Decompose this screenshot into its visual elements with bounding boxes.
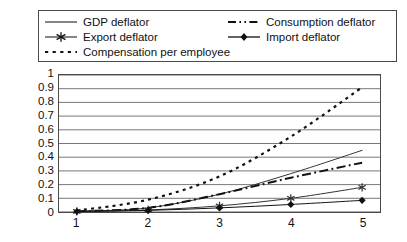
legend-item-compensation-per-employee: Compensation per employee	[44, 44, 230, 59]
legend-item-export-deflator: Export deflator	[44, 29, 158, 44]
y-axis-tick-labels: 00.10.20.30.40.50.60.70.80.91	[18, 74, 54, 213]
x-axis-tick-label: 1	[61, 216, 91, 230]
legend-label-gdp-deflator: GDP deflator	[83, 15, 149, 29]
legend-label-consumption-deflator: Consumption deflator	[266, 15, 375, 29]
legend-item-gdp-deflator: GDP deflator	[44, 14, 149, 29]
legend-label-compensation-per-employee: Compensation per employee	[83, 45, 230, 59]
plot-area	[58, 74, 381, 213]
y-axis-tick-label: 0.9	[20, 82, 54, 93]
x-axis-tick-label: 3	[205, 216, 235, 230]
y-axis-tick-label: 0.1	[20, 193, 54, 204]
legend-item-import-deflator: Import deflator	[227, 29, 340, 44]
legend-swatch-star-marker-line-icon	[44, 30, 78, 44]
legend-item-consumption-deflator: Consumption deflator	[227, 14, 375, 29]
legend-swatch-dash-dot-line-icon	[227, 15, 261, 29]
legend-swatch-solid-line-icon	[44, 15, 78, 29]
y-axis-tick-label: 0.6	[20, 124, 54, 135]
x-axis-tick-label: 4	[276, 216, 306, 230]
y-axis-tick-label: 0.3	[20, 165, 54, 176]
series-line	[77, 87, 362, 210]
legend-swatch-dotted-line-icon	[44, 45, 78, 59]
y-axis-tick-label: 1	[20, 68, 54, 79]
legend-label-import-deflator: Import deflator	[266, 30, 340, 44]
y-axis-tick-label: 0.7	[20, 110, 54, 121]
legend-swatch-diamond-marker-line-icon	[227, 30, 261, 44]
data-point-marker-diamond	[287, 201, 294, 208]
y-axis-tick-label: 0.8	[20, 96, 54, 107]
data-series-layer	[59, 75, 380, 212]
legend-label-export-deflator: Export deflator	[83, 30, 158, 44]
x-axis-tick-labels: 12345	[58, 216, 381, 234]
chart-legend: GDP deflator Export deflator	[38, 10, 397, 62]
data-point-marker-diamond	[359, 197, 366, 204]
chart-figure: GDP deflator Export deflator	[0, 0, 407, 242]
data-point-marker-diamond	[73, 208, 80, 215]
series-import-deflator	[73, 197, 365, 215]
y-axis-tick-label: 0.4	[20, 151, 54, 162]
series-compensation-per-employee	[77, 87, 362, 210]
y-axis-tick-label: 0.5	[20, 138, 54, 149]
x-axis-tick-label: 2	[133, 216, 163, 230]
y-axis-tick-label: 0	[20, 207, 54, 218]
x-axis-tick-label: 5	[348, 216, 378, 230]
y-axis-tick-label: 0.2	[20, 179, 54, 190]
